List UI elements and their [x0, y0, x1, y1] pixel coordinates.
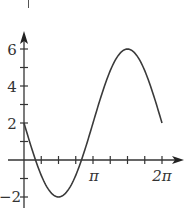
x-label-pi: π	[88, 167, 100, 185]
y-label-neg2: −2	[0, 188, 21, 206]
y-label-4: 4	[7, 78, 17, 96]
y-label-6: 6	[7, 41, 17, 59]
x-label-2pi: 2π	[151, 167, 173, 185]
y-label-2: 2	[7, 115, 17, 133]
sine-chart: 6 4 2 −2 π 2π	[0, 0, 186, 216]
